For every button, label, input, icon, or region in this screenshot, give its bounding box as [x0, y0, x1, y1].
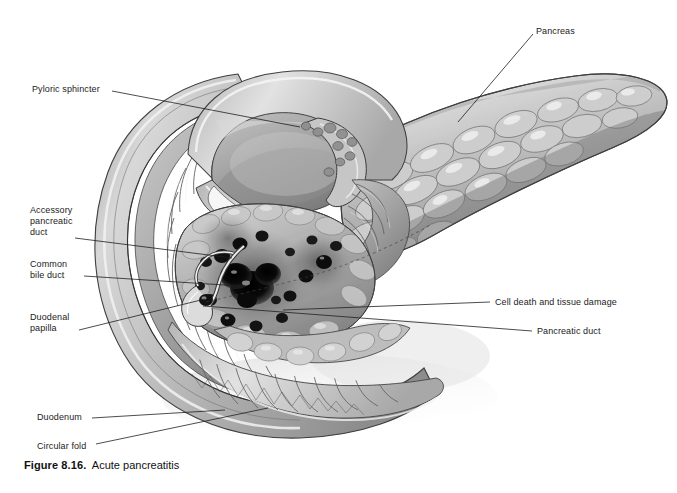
label-common-bile-duct: Common bile duct — [30, 259, 67, 281]
label-cell-death-and-tissue-damage: Cell death and tissue damage — [495, 297, 617, 308]
label-circular-fold: Circular fold — [37, 441, 86, 452]
label-pyloric-sphincter: Pyloric sphincter — [32, 84, 100, 95]
label-duodenal-papilla: Duodenal papilla — [30, 312, 69, 334]
label-pancreas: Pancreas — [536, 26, 575, 37]
figure-caption: Figure 8.16. Acute pancreatitis — [24, 458, 179, 472]
label-accessory-pancreatic-duct: Accessory pancreatic duct — [30, 205, 73, 238]
figure-container: Pyloric sphincter Pancreas Accessory pan… — [0, 0, 677, 493]
acute-pancreatitis-illustration — [0, 0, 677, 493]
figure-caption-number: Figure 8.16. — [24, 459, 86, 471]
figure-caption-text: Acute pancreatitis — [92, 459, 179, 471]
label-duodenum: Duodenum — [37, 412, 82, 423]
label-pancreatic-duct: Pancreatic duct — [537, 326, 601, 337]
